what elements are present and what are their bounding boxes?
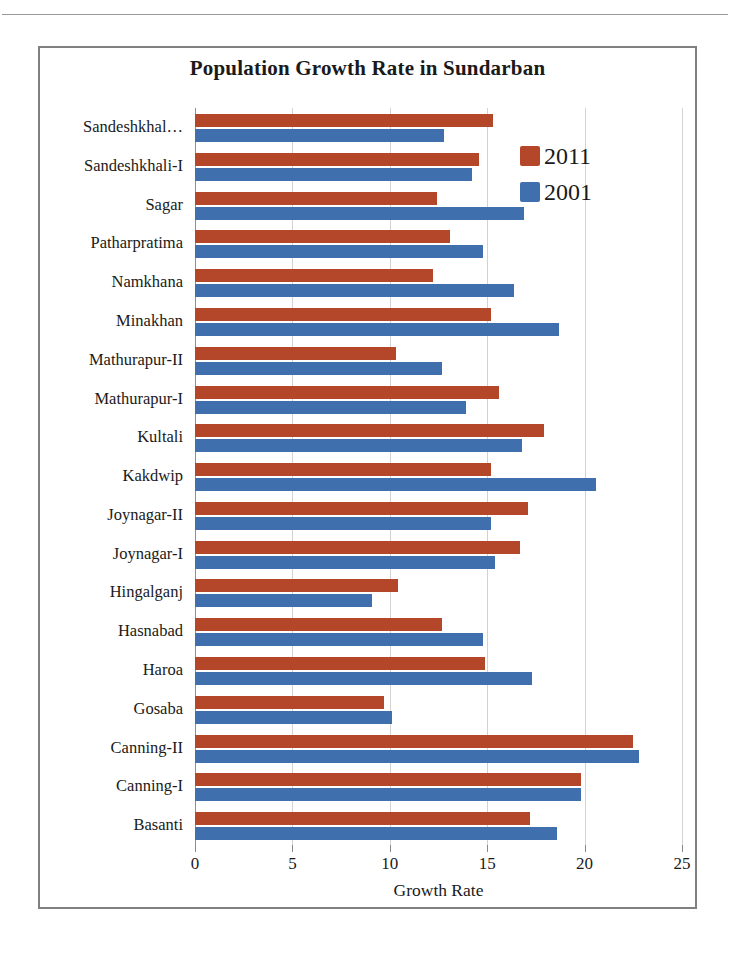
x-tick-label: 25 <box>674 854 691 874</box>
bar-2001[interactable] <box>195 672 532 685</box>
bar-2011[interactable] <box>195 347 396 360</box>
category-label: Haroa <box>143 651 183 690</box>
bar-2001[interactable] <box>195 401 466 414</box>
bar-2011[interactable] <box>195 618 442 631</box>
bar-row <box>195 302 682 341</box>
bar-2011[interactable] <box>195 424 544 437</box>
bar-2001[interactable] <box>195 478 596 491</box>
bar-row <box>195 535 682 574</box>
bar-2011[interactable] <box>195 735 633 748</box>
legend-swatch-icon <box>520 182 540 202</box>
legend-item[interactable]: 2001 <box>520 174 640 210</box>
bar-row <box>195 457 682 496</box>
bar-2001[interactable] <box>195 245 483 258</box>
category-label: Canning-I <box>116 767 183 806</box>
bar-2001[interactable] <box>195 556 495 569</box>
x-tick-mark <box>390 845 391 852</box>
bar-2001[interactable] <box>195 323 559 336</box>
bar-2001[interactable] <box>195 788 581 801</box>
y-axis-category-labels: Sandeshkhal…Sandeshkhali-ISagarPatharpra… <box>40 108 190 845</box>
category-label: Joynagar-II <box>107 496 183 535</box>
x-tick-label: 20 <box>576 854 593 874</box>
x-tick-label: 15 <box>479 854 496 874</box>
bar-row <box>195 341 682 380</box>
bar-2001[interactable] <box>195 711 392 724</box>
bar-row <box>195 380 682 419</box>
bar-2011[interactable] <box>195 502 528 515</box>
category-label: Patharpratima <box>90 224 183 263</box>
bar-2001[interactable] <box>195 750 639 763</box>
x-axis-tick-labels: 0510152025 <box>195 854 682 880</box>
category-label: Namkhana <box>112 263 183 302</box>
bar-2011[interactable] <box>195 812 530 825</box>
category-label: Minakhan <box>116 302 183 341</box>
bar-row <box>195 651 682 690</box>
chart-title: Population Growth Rate in Sundarban <box>40 56 695 81</box>
bar-2011[interactable] <box>195 153 479 166</box>
legend-item[interactable]: 2011 <box>520 138 640 174</box>
bar-row <box>195 224 682 263</box>
category-label: Canning-II <box>111 729 183 768</box>
x-tick-mark <box>292 845 293 852</box>
bar-2011[interactable] <box>195 579 398 592</box>
bar-2001[interactable] <box>195 129 444 142</box>
bar-2011[interactable] <box>195 192 437 205</box>
bar-2011[interactable] <box>195 114 493 127</box>
category-label: Kakdwip <box>123 457 184 496</box>
bar-2011[interactable] <box>195 657 485 670</box>
bar-2001[interactable] <box>195 594 372 607</box>
bar-2011[interactable] <box>195 463 491 476</box>
chart-container: Population Growth Rate in Sundarban Sand… <box>38 46 697 909</box>
bar-2001[interactable] <box>195 284 514 297</box>
category-label: Mathurapur-I <box>94 380 183 419</box>
bar-2001[interactable] <box>195 827 557 840</box>
bar-2011[interactable] <box>195 308 491 321</box>
category-label: Basanti <box>134 806 184 845</box>
bar-2011[interactable] <box>195 541 520 554</box>
category-label: Hingalganj <box>110 573 183 612</box>
legend-label: 2011 <box>544 144 591 168</box>
bar-row <box>195 496 682 535</box>
gridline <box>682 108 683 845</box>
x-axis-ticks <box>195 845 682 853</box>
plot-area <box>195 108 682 845</box>
category-label: Sagar <box>145 186 183 225</box>
category-label: Mathurapur-II <box>89 341 183 380</box>
x-tick-mark <box>585 845 586 852</box>
category-label: Gosaba <box>134 690 183 729</box>
bar-2011[interactable] <box>195 696 384 709</box>
bar-row <box>195 690 682 729</box>
page-header <box>0 0 730 30</box>
x-axis-title: Growth Rate <box>195 880 682 901</box>
chart-legend: 20112001 <box>520 138 640 210</box>
bar-2011[interactable] <box>195 269 433 282</box>
bar-2011[interactable] <box>195 386 499 399</box>
x-tick-label: 10 <box>381 854 398 874</box>
x-tick-mark <box>195 845 196 852</box>
bar-row <box>195 729 682 768</box>
bar-2011[interactable] <box>195 773 581 786</box>
category-label: Hasnabad <box>118 612 183 651</box>
bar-row <box>195 573 682 612</box>
bar-2001[interactable] <box>195 439 522 452</box>
x-tick-mark <box>487 845 488 852</box>
bar-row <box>195 767 682 806</box>
bar-row <box>195 418 682 457</box>
bar-rows <box>195 108 682 845</box>
x-tick-label: 5 <box>288 854 297 874</box>
legend-swatch-icon <box>520 146 540 166</box>
bar-2001[interactable] <box>195 517 491 530</box>
x-tick-mark <box>682 845 683 852</box>
bar-2001[interactable] <box>195 362 442 375</box>
category-label: Sandeshkhali-I <box>84 147 183 186</box>
bar-row <box>195 612 682 651</box>
category-label: Kultali <box>137 418 183 457</box>
bar-row <box>195 806 682 845</box>
bar-row <box>195 263 682 302</box>
category-label: Joynagar-I <box>113 535 183 574</box>
bar-2001[interactable] <box>195 633 483 646</box>
bar-2001[interactable] <box>195 168 472 181</box>
bar-2001[interactable] <box>195 207 524 220</box>
page-header-rule <box>2 14 728 15</box>
bar-2011[interactable] <box>195 230 450 243</box>
